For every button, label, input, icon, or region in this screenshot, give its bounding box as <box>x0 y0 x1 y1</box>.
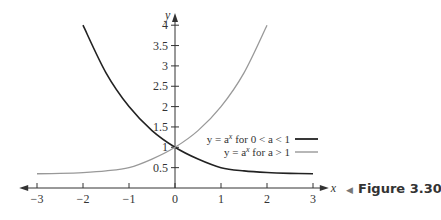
x-tick-label: 3 <box>310 192 316 206</box>
x-tick-label: −3 <box>31 192 44 206</box>
x-tick-label: −1 <box>123 192 136 206</box>
y-tick-label: 4 <box>162 18 168 32</box>
y-tick-label: 0.5 <box>153 161 168 175</box>
y-tick-label: 2.5 <box>153 79 168 93</box>
x-tick-label: 0 <box>172 192 178 206</box>
figure-caption: ◀ Figure 3.30 <box>346 181 441 196</box>
legend-entry-label: y = ax for 0 < a < 1 <box>207 132 290 145</box>
y-tick-label: 2 <box>162 100 168 114</box>
y-tick-label: 3.5 <box>153 39 168 53</box>
y-tick-label: 3 <box>162 59 168 73</box>
legend: y = ax for 0 < a < 1y = ax for a > 1 <box>207 132 318 158</box>
y-axis-arrow <box>172 13 178 22</box>
y-tick-label: 1.5 <box>153 120 168 134</box>
figure-label: Figure 3.30 <box>358 181 441 196</box>
x-axis-arrow-left <box>19 185 28 191</box>
x-axis-arrow-right <box>320 185 329 191</box>
figure-marker-icon: ◀ <box>346 185 353 195</box>
x-tick-label: 2 <box>264 192 270 206</box>
x-axis-label: x <box>330 181 337 195</box>
axes: x y <box>19 8 337 195</box>
legend-entry-label: y = ax for a > 1 <box>224 145 290 158</box>
x-tick-label: 1 <box>218 192 224 206</box>
x-ticks: −3−2−10123 <box>31 183 316 206</box>
exponential-functions-chart: x y −3−2−10123 0.511.522.533.54 y = ax f… <box>0 0 441 220</box>
x-tick-label: −2 <box>77 192 90 206</box>
